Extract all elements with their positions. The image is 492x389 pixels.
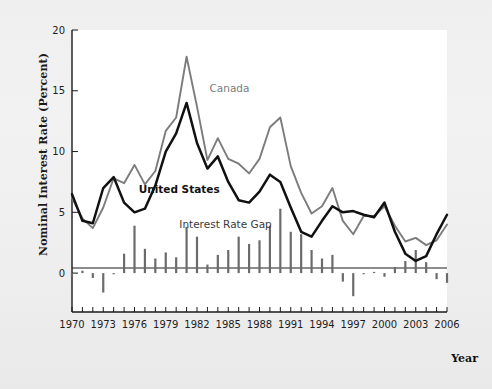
- x-tick-label: 2006: [434, 319, 459, 330]
- plot-area: CanadaUnited StatesInterest Rate Gap 197…: [0, 0, 492, 389]
- x-tick-label: 1988: [247, 319, 272, 330]
- interest-rate-gap-label: Interest Rate Gap: [179, 218, 272, 230]
- x-tick-label: 1970: [59, 319, 84, 330]
- y-tick-label: 20: [52, 25, 65, 36]
- chart-figure: Nominal Interest Rate (Percent) Year Can…: [0, 0, 492, 389]
- x-tick-label: 1979: [153, 319, 178, 330]
- x-tick-label: 1976: [122, 319, 147, 330]
- y-tick-label: 0: [59, 268, 65, 279]
- united-states-label: United States: [139, 183, 220, 195]
- y-tick-label: 5: [59, 207, 65, 218]
- x-tick-label: 1991: [278, 319, 303, 330]
- x-tick-label: 2000: [372, 319, 397, 330]
- x-tick-label: 1982: [184, 319, 209, 330]
- x-axis-tick-labels: 1970197319761979198219851988199119941997…: [59, 319, 459, 330]
- x-tick-label: 2003: [403, 319, 428, 330]
- x-tick-label: 1973: [91, 319, 116, 330]
- x-tick-label: 1994: [309, 319, 334, 330]
- x-tick-label: 1997: [341, 319, 366, 330]
- figure-page: Nominal Interest Rate (Percent) Year Can…: [0, 0, 492, 389]
- x-tick-label: 1985: [216, 319, 241, 330]
- canada-label: Canada: [210, 82, 250, 94]
- y-tick-label: 15: [52, 85, 65, 96]
- y-axis-tick-labels: 05101520: [52, 25, 65, 279]
- y-tick-label: 10: [52, 146, 65, 157]
